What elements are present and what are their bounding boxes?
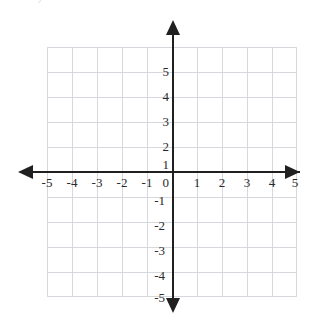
cropped-title-remnant: y xyxy=(38,0,168,11)
x-tick-label: 1 xyxy=(185,176,209,189)
x-tick-label: 3 xyxy=(235,176,259,189)
x-tick-label: -4 xyxy=(60,176,84,189)
arrow-left-icon xyxy=(18,165,33,179)
coordinate-plane-figure: y -5 -4 -3 -2 -1 1 2 3 4 5 5 4 3 xyxy=(0,0,312,333)
y-tick-label: -3 xyxy=(145,244,165,257)
y-tick-label: -5 xyxy=(145,291,165,304)
x-tick-label: 5 xyxy=(283,176,307,189)
x-tick-label: -5 xyxy=(35,176,59,189)
origin-label: 0 xyxy=(149,176,169,189)
arrow-down-icon xyxy=(166,298,180,313)
arrow-up-icon xyxy=(166,20,180,35)
y-tick-label: -2 xyxy=(145,219,165,232)
x-tick-label: -3 xyxy=(85,176,109,189)
y-axis xyxy=(172,27,174,306)
y-tick-label: 4 xyxy=(149,90,169,103)
x-tick-label: 2 xyxy=(210,176,234,189)
x-axis xyxy=(24,171,300,173)
x-tick-label: 4 xyxy=(260,176,284,189)
y-tick-label: 2 xyxy=(149,140,169,153)
y-tick-label: -4 xyxy=(145,269,165,282)
cropped-title-text: y xyxy=(38,0,46,3)
y-tick-label: 3 xyxy=(149,115,169,128)
x-tick-label: -2 xyxy=(110,176,134,189)
y-tick-label: -1 xyxy=(145,194,165,207)
y-tick-label: 1 xyxy=(149,158,169,171)
y-tick-label: 5 xyxy=(149,65,169,78)
